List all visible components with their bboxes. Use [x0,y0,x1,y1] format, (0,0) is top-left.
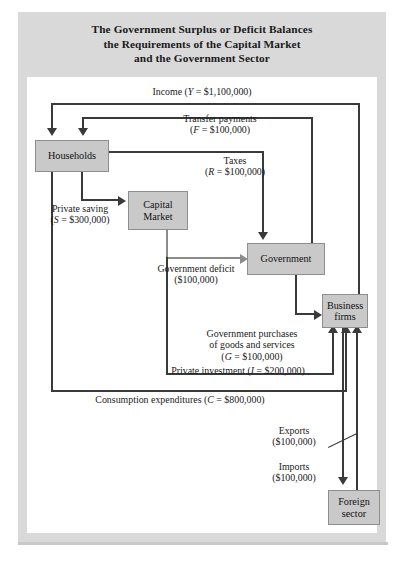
flow-label-transfer-payments: Transfer payments (F = $100,000) [140,113,300,136]
flow-label-private-saving: Private saving (S = $300,000) [28,203,132,226]
business-firms-label-line-2: firms [334,311,356,322]
title-line-3: and the Government Sector [18,51,386,66]
income-line-vertical-left [51,103,53,129]
sector-box-capital-market[interactable]: Capital Market [128,191,188,230]
government-label: Government [261,253,312,265]
flow-label-taxes: Taxes (R = $100,000) [165,155,305,178]
income-line-vertical-right [358,103,360,295]
imports-line-2: ($100,000) [258,472,330,483]
taxes-line-2: (R = $100,000) [165,166,305,177]
transfer-arrowhead [78,128,88,136]
exports-line-2: ($100,000) [258,436,330,447]
taxes-line-1: Taxes [165,155,305,166]
imports-line-1: Imports [258,461,330,472]
gov-purchases-line-3: (G = $100,000) [172,351,332,362]
transfer-line-vertical-right [311,117,313,245]
imports-line-vertical [342,326,344,478]
private-saving-line-1: Private saving [28,203,132,214]
households-label: Households [48,150,96,162]
gov-deficit-line-horizontal [166,257,241,259]
foreign-sector-label-line-1: Foreign [338,496,370,507]
consumption-line-vertical-right [345,332,347,391]
flow-label-private-investment: Private investment (I = $200,000) [148,365,328,376]
income-arrowhead [47,128,57,136]
capital-market-label-line-2: Market [143,211,172,222]
sector-box-households[interactable]: Households [35,140,109,172]
flow-label-government-purchases: Government purchases of goods and servic… [172,328,332,362]
transfer-line-1: Transfer payments [140,113,300,124]
gov-purchases-line-2: of goods and services [172,339,332,350]
business-firms-label-line-1: Business [327,300,363,311]
gov-purchases-line-vertical [295,272,297,315]
exports-line-1: Exports [258,425,330,436]
title-line-2: the Requirements of the Capital Market [18,37,386,52]
gov-deficit-line-vertical [166,228,168,260]
gov-deficit-line-1: Government deficit [126,263,266,274]
private-investment-line-vertical-right [332,332,334,374]
imports-arrowhead [338,477,348,485]
sector-box-foreign-sector[interactable]: Foreign sector [328,490,380,525]
gov-purchases-arrowhead [314,310,322,320]
figure-title: The Government Surplus or Deficit Balanc… [18,22,386,66]
flow-label-exports: Exports ($100,000) [258,425,330,448]
gov-deficit-line-2: ($100,000) [126,274,266,285]
sector-box-government[interactable]: Government [247,243,325,275]
income-line-horizontal [51,103,360,105]
taxes-arrowhead [258,232,268,240]
transfer-line-2: (F = $100,000) [140,124,300,135]
taxes-line-horizontal [105,151,264,153]
foreign-sector-label-line-2: sector [342,508,366,519]
capital-market-label-line-1: Capital [143,199,172,210]
flow-label-government-deficit: Government deficit ($100,000) [126,263,266,286]
private-saving-line-vertical [81,170,83,201]
title-line-1: The Government Surplus or Deficit Balanc… [18,22,386,37]
consumption-line-horizontal [51,390,347,392]
private-saving-line-2: (S = $300,000) [28,214,132,225]
sector-box-business-firms[interactable]: Business firms [322,294,368,328]
exports-line-vertical [356,332,358,490]
figure-mat-shadow [18,542,388,545]
gov-purchases-line-1: Government purchases [172,328,332,339]
flow-label-income: Income (Y = $1,100,000) [110,86,294,97]
private-saving-line-horizontal [81,199,119,201]
flow-label-consumption: Consumption expenditures (C = $800,000) [55,394,305,405]
flow-label-imports: Imports ($100,000) [258,461,330,484]
figure-root: The Government Surplus or Deficit Balanc… [0,0,404,563]
